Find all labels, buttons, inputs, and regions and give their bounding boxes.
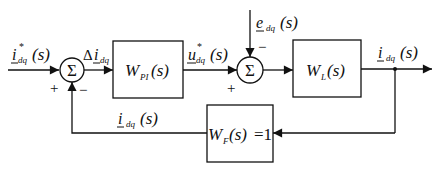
svg-text:*: * xyxy=(19,41,24,52)
svg-text:(s): (s) xyxy=(151,61,169,80)
pi-controller-block xyxy=(113,41,183,98)
sum2-symbol: Σ xyxy=(245,61,255,80)
svg-text:i: i xyxy=(378,44,382,61)
disturbance-label: e dq (s) xyxy=(256,13,298,33)
feedback-signal-label: i dq (s) xyxy=(117,109,158,129)
svg-text:L: L xyxy=(320,72,326,82)
svg-text:(s): (s) xyxy=(210,45,228,64)
svg-text:*: * xyxy=(197,41,202,52)
sum2-minus: − xyxy=(258,39,266,55)
reference-signal-label: i * dq (s) xyxy=(11,41,50,65)
block-diagram: Σ Σ + − + − i * dq (s) Δ i dq W PI (s) u… xyxy=(0,0,444,174)
svg-text:dq: dq xyxy=(18,55,28,65)
svg-text:dq: dq xyxy=(100,55,110,65)
sum1-plus: + xyxy=(50,80,58,96)
sum2-plus: + xyxy=(227,80,235,96)
pi-block-label: W PI (s) xyxy=(125,61,169,82)
plant-block-label: W L (s) xyxy=(306,61,345,82)
feedback-block-label: W F (s) =1 xyxy=(208,125,272,146)
svg-text:(s): (s) xyxy=(280,13,298,32)
branch-point xyxy=(393,67,397,71)
sum1-minus: − xyxy=(79,82,87,98)
svg-text:W: W xyxy=(208,125,224,144)
svg-text:dq: dq xyxy=(266,23,276,33)
svg-text:W: W xyxy=(306,61,322,80)
controller-output-label: u * dq (s) xyxy=(187,41,228,65)
svg-text:F: F xyxy=(222,136,229,146)
svg-text:e: e xyxy=(256,14,263,31)
svg-text:(s): (s) xyxy=(140,109,158,128)
svg-text:(s): (s) xyxy=(400,43,418,62)
svg-text:dq: dq xyxy=(126,119,136,129)
error-signal-label: Δ i dq xyxy=(83,46,110,65)
sum1-symbol: Σ xyxy=(67,61,77,80)
svg-text:(s): (s) xyxy=(229,125,247,144)
svg-text:u: u xyxy=(188,46,196,63)
svg-text:W: W xyxy=(125,61,141,80)
svg-text:PI: PI xyxy=(139,72,149,82)
svg-text:i: i xyxy=(94,46,98,63)
svg-text:i: i xyxy=(118,110,122,127)
svg-text:(s): (s) xyxy=(32,45,50,64)
svg-text:dq: dq xyxy=(196,55,206,65)
svg-text:Δ: Δ xyxy=(83,47,93,63)
svg-text:=1: =1 xyxy=(254,125,272,144)
svg-text:dq: dq xyxy=(386,53,396,63)
svg-text:(s): (s) xyxy=(327,61,345,80)
svg-text:i: i xyxy=(12,46,16,63)
output-signal-label: i dq (s) xyxy=(377,43,418,63)
